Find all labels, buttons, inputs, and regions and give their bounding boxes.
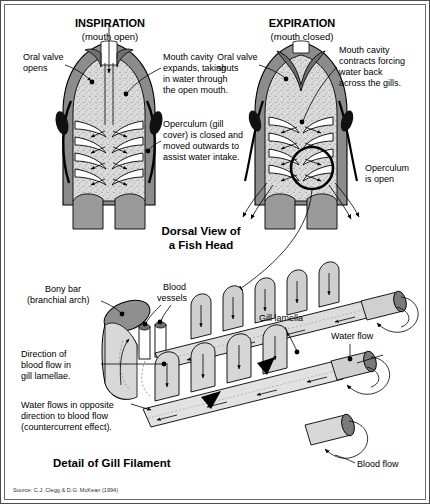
svg-text:water back: water back [338, 67, 383, 77]
svg-text:Oral valve: Oral valve [23, 52, 64, 62]
figure-page: INSPIRATION (mouth open) EXPIRATION (mou… [0, 0, 430, 504]
svg-text:Bony bar: Bony bar [45, 284, 81, 294]
inspiration-title: INSPIRATION [75, 17, 145, 29]
svg-text:opens: opens [23, 63, 48, 73]
svg-text:Blood: Blood [163, 282, 186, 292]
svg-text:Operculum: Operculum [365, 163, 409, 173]
svg-text:assist water intake.: assist water intake. [163, 152, 240, 162]
svg-text:Oral valve: Oral valve [217, 52, 258, 62]
svg-text:direction to blood flow: direction to blood flow [21, 411, 109, 421]
svg-text:Blood flow: Blood flow [357, 459, 399, 469]
label-countercurrent: Water flows in opposite direction to blo… [21, 400, 151, 432]
svg-text:Mouth cavity: Mouth cavity [163, 52, 214, 62]
fish-gill-diagram: INSPIRATION (mouth open) EXPIRATION (mou… [5, 5, 427, 501]
expiration-title: EXPIRATION [269, 17, 335, 29]
dorsal-view-caption-line2: a Fish Head [169, 239, 234, 251]
svg-text:vessels: vessels [157, 293, 188, 303]
svg-text:in water through: in water through [163, 74, 228, 84]
svg-text:blood flow in: blood flow in [21, 360, 71, 370]
svg-text:(countercurrent effect).: (countercurrent effect). [21, 422, 112, 432]
dorsal-view-caption-line1: Dorsal View of [161, 225, 240, 237]
svg-text:Water flow: Water flow [331, 331, 374, 341]
svg-text:Direction of: Direction of [21, 349, 67, 359]
svg-text:is open: is open [365, 174, 394, 184]
svg-text:the open mouth.: the open mouth. [163, 85, 228, 95]
svg-text:gill lamellae.: gill lamellae. [21, 371, 71, 381]
filament-caption: Detail of Gill Filament [53, 457, 171, 469]
svg-text:moved outwards to: moved outwards to [163, 141, 239, 151]
inspiration-fish-head [53, 23, 164, 229]
label-operculum-open: Operculum is open [365, 163, 409, 184]
figure-inner-border: INSPIRATION (mouth open) EXPIRATION (mou… [4, 4, 426, 500]
label-blood-vessels: Blood vessels [143, 282, 188, 326]
inspiration-subtitle: (mouth open) [82, 31, 139, 42]
svg-text:Gill lamella: Gill lamella [259, 313, 303, 323]
svg-text:Water flows in opposite: Water flows in opposite [21, 400, 114, 410]
svg-text:contracts forcing: contracts forcing [339, 56, 405, 66]
expiration-subtitle: (mouth closed) [271, 31, 334, 42]
svg-text:Operculum (gill: Operculum (gill [163, 119, 224, 129]
source-note: Source: C.J. Clegg & D.G. McKean (1994) [13, 487, 118, 493]
svg-text:(branchial arch): (branchial arch) [27, 295, 90, 305]
svg-text:cover) is closed and: cover) is closed and [163, 130, 243, 140]
svg-text:shuts: shuts [217, 63, 239, 73]
svg-text:across the gills.: across the gills. [339, 78, 401, 88]
gill-filament-detail [100, 262, 419, 458]
label-blood-flow: Blood flow [335, 455, 399, 469]
svg-text:Mouth cavity: Mouth cavity [339, 45, 390, 55]
